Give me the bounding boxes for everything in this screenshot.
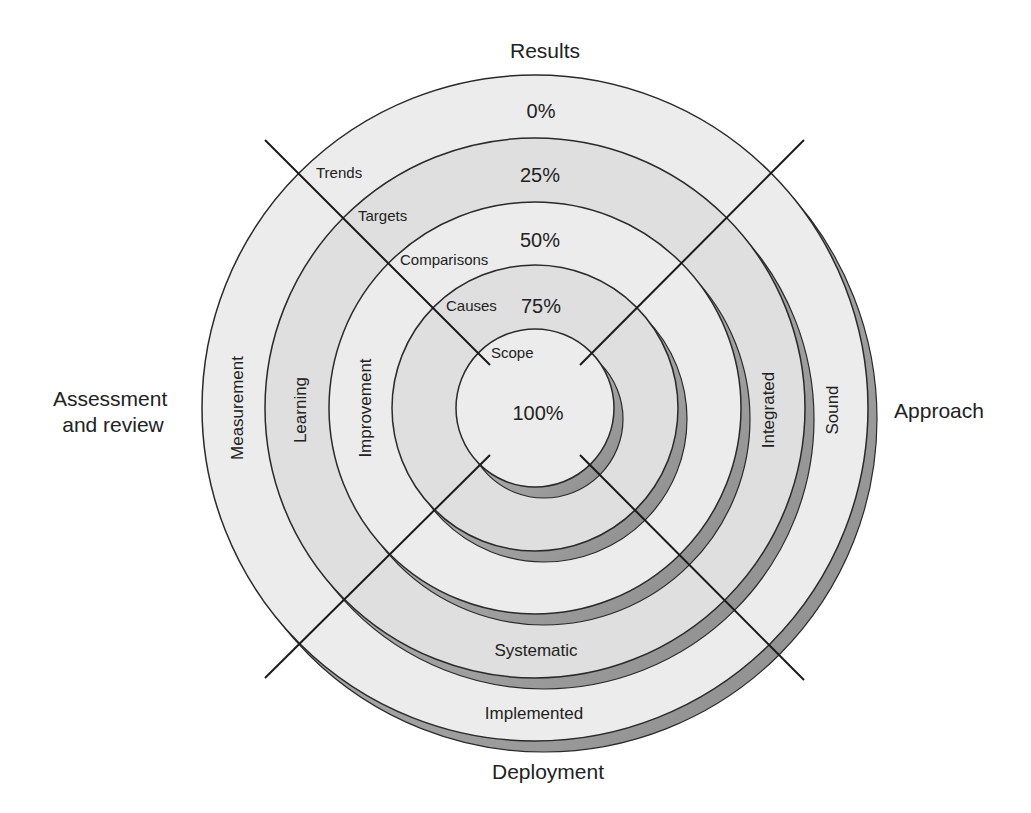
- percent-label: 50%: [520, 229, 560, 251]
- approach-ring-label: Integrated: [759, 372, 778, 449]
- axis-label-results: Results: [510, 39, 580, 62]
- deployment-ring-label: Systematic: [494, 641, 578, 660]
- assessment-ring-label: Measurement: [228, 356, 247, 460]
- axis-label-assessment-review: Assessment and review: [53, 387, 173, 436]
- results-ring-label: Scope: [491, 344, 534, 361]
- results-ring-label: Causes: [446, 297, 497, 314]
- assessment-ring-label: Learning: [291, 377, 310, 443]
- approach-ring-label: Sound: [823, 385, 842, 434]
- deployment-ring-label: Implemented: [485, 704, 583, 723]
- axis-label-line-2: and review: [62, 413, 164, 436]
- axis-label-line-1: Assessment: [53, 387, 168, 410]
- results-ring-label: Comparisons: [400, 251, 488, 268]
- rings-diagram: 0%25%50%75%100% TrendsTargetsComparisons…: [0, 0, 1031, 813]
- results-ring-label: Targets: [358, 207, 407, 224]
- percent-label: 100%: [512, 402, 563, 424]
- results-ring-label: Trends: [316, 164, 362, 181]
- axis-label-deployment: Deployment: [492, 760, 604, 783]
- assessment-ring-label: Improvement: [356, 358, 375, 457]
- axis-label-approach: Approach: [894, 399, 984, 422]
- percent-label: 75%: [521, 295, 561, 317]
- percent-label: 0%: [527, 100, 556, 122]
- percent-label: 25%: [520, 164, 560, 186]
